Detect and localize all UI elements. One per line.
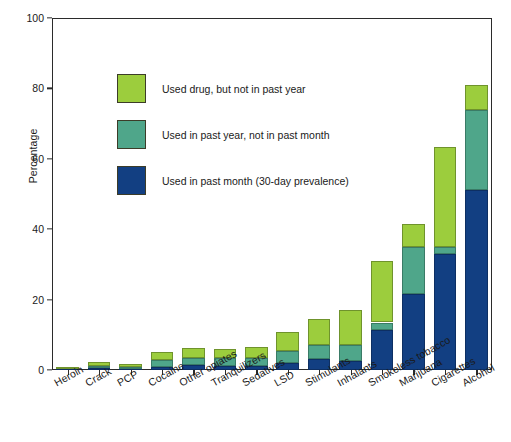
bar-segment: [434, 254, 457, 370]
bar-group: [402, 18, 425, 370]
bar-group: [88, 18, 111, 370]
bar-segment: [339, 310, 362, 345]
legend-swatch: [117, 120, 146, 149]
bar-segment: [119, 364, 142, 367]
bar-segment: [465, 190, 488, 370]
bar-group: [434, 18, 457, 370]
y-tick-label: 60: [0, 153, 44, 165]
stacked-bar-chart: Percentage 020406080100 HeroinCrackPCPCo…: [0, 0, 511, 442]
bar-segment: [402, 224, 425, 247]
y-tick-label: 0: [0, 364, 44, 376]
legend-item: Used drug, but not in past year: [117, 74, 306, 103]
bar-segment: [151, 352, 174, 360]
legend-item: Used in past year, not in past month: [117, 120, 330, 149]
bar-segment: [276, 332, 299, 351]
bar-segment: [402, 247, 425, 295]
legend-swatch: [117, 74, 146, 103]
y-tick-label: 20: [0, 294, 44, 306]
legend-label: Used drug, but not in past year: [162, 83, 306, 95]
bar-segment: [371, 261, 394, 323]
legend-swatch: [117, 166, 146, 195]
bar-group: [465, 18, 488, 370]
bar-segment: [465, 85, 488, 110]
bar-segment: [308, 345, 331, 359]
bar-segment: [182, 348, 205, 358]
y-tick-label: 40: [0, 223, 44, 235]
bar-group: [56, 18, 79, 370]
legend-label: Used in past month (30-day prevalence): [162, 175, 349, 187]
bar-segment: [434, 147, 457, 247]
y-tick-label: 80: [0, 82, 44, 94]
legend-item: Used in past month (30-day prevalence): [117, 166, 349, 195]
x-tick-label: PCP: [115, 367, 140, 388]
y-axis-ticks: 020406080100: [0, 0, 52, 442]
y-tick-label: 100: [0, 12, 44, 24]
legend-label: Used in past year, not in past month: [162, 129, 330, 141]
bar-group: [371, 18, 394, 370]
bar-segment: [371, 323, 394, 330]
bar-segment: [465, 110, 488, 191]
bar-segment: [308, 319, 331, 345]
bar-segment: [434, 247, 457, 254]
